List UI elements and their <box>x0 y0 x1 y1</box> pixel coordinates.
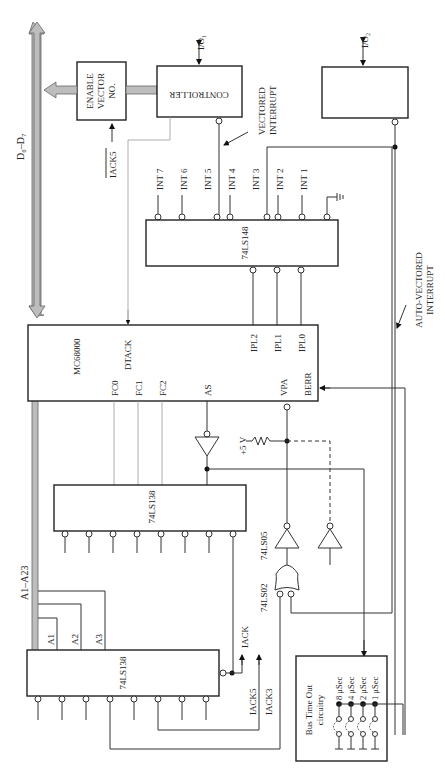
iack5-top-label: IACK5 <box>108 151 118 178</box>
autovectored-line2: INTERRUPT <box>425 265 435 315</box>
pin-fc2: FC2 <box>158 380 168 396</box>
pin-fc0: FC0 <box>110 380 120 396</box>
svg-text:INT 1: INT 1 <box>299 168 309 190</box>
inverter-label: 74LS05 <box>259 531 269 560</box>
svg-text:INT 4: INT 4 <box>227 168 237 190</box>
timeout-1us: 1 μSec <box>370 677 380 700</box>
bus-timeout-line2: circuitry <box>315 694 325 725</box>
data-bus-arrow <box>29 22 45 318</box>
addr-a2: A2 <box>70 634 80 645</box>
controller-label: CONTROLLER <box>169 90 229 100</box>
iack5-label: IACK5 <box>248 688 258 715</box>
pin-dtack: DTACK <box>123 339 133 370</box>
svg-text:INT 2: INT 2 <box>275 168 285 190</box>
vectored-line1: VECTORED <box>257 87 267 135</box>
iack-label: IACK <box>240 626 250 648</box>
encoder-label: 74LS148 <box>240 226 250 260</box>
plus5v-label: +5 V <box>238 436 248 455</box>
data-bus-label: D₀–D₇ <box>15 134 26 160</box>
address-bus-label: A1–A23 <box>19 566 30 600</box>
iack3-label: IACK3 <box>264 688 274 715</box>
pin-ipl0: IPL0 <box>297 334 307 353</box>
encoder-inputs: INT 7 INT 6 INT 5 INT 4 INT 3 INT 2 INT … <box>155 168 309 190</box>
pin-ipl1: IPL1 <box>273 334 283 352</box>
nor-label: 74LS02 <box>259 583 269 612</box>
addr-a3: A3 <box>94 634 104 645</box>
decoder-addr-label: 74LS138 <box>118 656 128 690</box>
enable-vector-line1: ENABLE <box>85 73 95 109</box>
svg-text:INT 5: INT 5 <box>203 168 213 190</box>
timeout-4us: 4 μSec <box>346 677 356 700</box>
autovectored-line1: AUTO-VECTORED <box>414 252 424 328</box>
cpu-label: MC68000 <box>72 338 82 375</box>
decoder-fc-label: 74LS138 <box>147 490 157 524</box>
pin-berr: BERR <box>303 372 313 396</box>
controller-to-enable <box>126 86 157 94</box>
io2-label: I/O₂ <box>360 33 370 48</box>
enable-vector-line3: NO. <box>107 83 117 98</box>
pin-vpa: VPA <box>279 378 289 396</box>
addr-a1: A1 <box>46 634 56 645</box>
io1-label: I/O₁ <box>196 35 206 50</box>
io2-int-bubble <box>392 119 398 125</box>
io2-block <box>322 67 408 118</box>
svg-text:INT 7: INT 7 <box>155 168 165 190</box>
pin-as: AS <box>203 384 213 396</box>
controller-int-bubble <box>216 118 222 124</box>
bus-timeout-line1: Bus Time Out <box>304 684 314 735</box>
timeout-2us: 2 μSec <box>358 677 368 700</box>
svg-text:INT 6: INT 6 <box>179 168 189 190</box>
enable-vector-line2: VECTOR <box>96 73 106 109</box>
interrupt-circuit-diagram: D₀–D₇ A1–A23 ENABLE VECTOR NO. IACK5 CON… <box>0 0 445 770</box>
svg-text:INT 3: INT 3 <box>251 168 261 190</box>
vector-to-bus-arrow <box>44 82 77 98</box>
vectored-line2: INTERRUPT <box>268 85 278 135</box>
pin-fc1: FC1 <box>134 380 144 396</box>
pin-ipl2: IPL2 <box>249 334 259 352</box>
timeout-8us: 8 μSec <box>334 677 344 700</box>
address-bus-arrow <box>28 400 42 678</box>
